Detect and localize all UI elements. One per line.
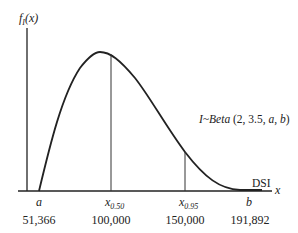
tick-value-a: 51,366 bbox=[23, 213, 56, 227]
tick-symbol-x095: x0.95 bbox=[178, 195, 198, 211]
y-axis-label: fI(x) bbox=[19, 11, 38, 27]
curve-label-dsi: DSI bbox=[252, 177, 271, 189]
tick-symbol-b: b bbox=[246, 195, 252, 209]
tick-value-x095: 150,000 bbox=[166, 213, 205, 227]
tick-value-b: 191,892 bbox=[231, 213, 270, 227]
tick-symbol-x050: x0.50 bbox=[104, 195, 124, 211]
beta-pdf-chart: fI(x) I~Beta (2, 3.5, a, b) DSI x a x0.5… bbox=[0, 0, 298, 233]
tick-symbol-a: a bbox=[36, 195, 42, 209]
tick-value-x050: 100,000 bbox=[92, 213, 131, 227]
distribution-annotation: I~Beta (2, 3.5, a, b) bbox=[198, 113, 290, 126]
x-axis-label: x bbox=[274, 183, 281, 197]
